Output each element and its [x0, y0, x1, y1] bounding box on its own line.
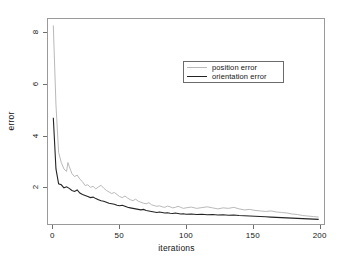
- series-line-orientation-error: [53, 118, 318, 220]
- legend-label-orientation-error: orientation error: [212, 72, 267, 81]
- legend-label-position-error: position error: [212, 63, 257, 72]
- x-tick-mark: [119, 225, 120, 229]
- x-tick-mark: [320, 225, 321, 229]
- y-tick-mark: [43, 84, 47, 85]
- y-tick-label: 4: [31, 131, 40, 141]
- y-tick-mark: [43, 32, 47, 33]
- plot-area: [47, 18, 325, 225]
- chart-legend: position error orientation error: [183, 61, 284, 83]
- x-tick-label: 0: [50, 231, 55, 240]
- legend-swatch-orientation-error: [187, 76, 207, 77]
- y-tick-mark: [43, 187, 47, 188]
- x-tick-mark: [186, 225, 187, 229]
- x-tick-mark: [253, 225, 254, 229]
- x-tick-mark: [52, 225, 53, 229]
- y-tick-label: 6: [31, 79, 40, 89]
- legend-item-position-error: position error: [187, 63, 280, 72]
- y-tick-label: 8: [31, 27, 40, 37]
- chart-figure: position error orientation error 0501001…: [0, 0, 353, 267]
- series-line-position-error: [53, 25, 318, 217]
- legend-swatch-position-error: [187, 67, 207, 68]
- y-axis-label: error: [6, 112, 16, 131]
- x-tick-label: 50: [115, 231, 124, 240]
- plot-svg: [48, 19, 324, 224]
- x-axis-label: iterations: [0, 243, 353, 253]
- x-tick-label: 100: [179, 231, 193, 240]
- x-tick-label: 200: [313, 231, 327, 240]
- x-tick-label: 150: [246, 231, 260, 240]
- y-tick-mark: [43, 136, 47, 137]
- legend-item-orientation-error: orientation error: [187, 72, 280, 81]
- y-tick-label: 2: [31, 182, 40, 192]
